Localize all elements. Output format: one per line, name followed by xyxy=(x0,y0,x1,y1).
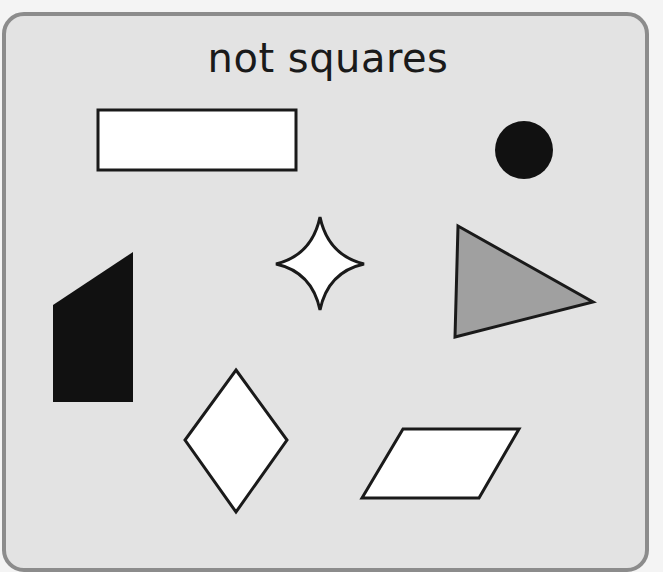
parallelogram-shape xyxy=(362,429,519,498)
star-shape xyxy=(276,217,364,310)
trapezium-shape xyxy=(53,252,133,402)
triangle-shape xyxy=(455,226,593,337)
circle-shape xyxy=(495,121,553,179)
rectangle-shape xyxy=(98,110,296,170)
rhombus-shape xyxy=(185,370,287,512)
